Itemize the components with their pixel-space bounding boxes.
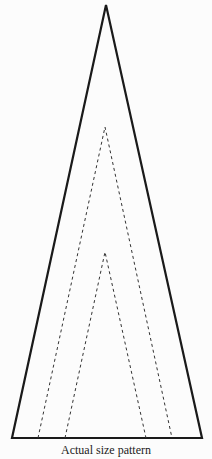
outer-triangle (12, 5, 202, 438)
caption: Actual size pattern (0, 443, 212, 458)
inner-dashed-fold-line (65, 252, 146, 438)
pattern-diagram (0, 0, 212, 459)
outer-dashed-fold-line (38, 127, 172, 438)
